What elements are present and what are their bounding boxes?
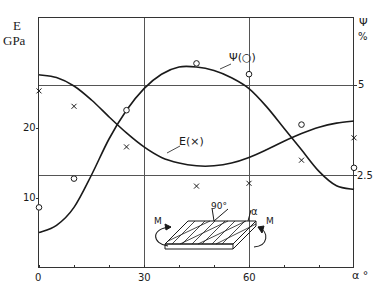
- psi-curve-label: Ψ(○): [229, 52, 256, 64]
- x-tick-label-30: 30: [138, 272, 151, 284]
- psi-data-point-circle-marker: [351, 165, 357, 171]
- inset-moment-left-label: M: [154, 215, 162, 227]
- psi-data-point-circle-marker: [246, 71, 252, 77]
- psi-data-point-circle-marker: [124, 107, 130, 113]
- left-axis-title-e: E: [13, 19, 21, 33]
- right-axis-title-psi: Ψ: [359, 17, 368, 29]
- inset-moment-right-label: M: [266, 215, 274, 227]
- right-axis-title-unit: %: [358, 31, 368, 43]
- plate-side-face: [165, 244, 233, 249]
- left-tick-label-10: 10: [23, 192, 36, 204]
- inset-alpha-label: α: [251, 206, 258, 218]
- e-curve: [39, 75, 354, 166]
- psi-label-leader: [220, 64, 231, 69]
- right-tick-label-2-5: 2.5: [357, 170, 373, 182]
- e-data-point-x-marker: [194, 184, 199, 189]
- left-tick-label-20: 20: [23, 122, 36, 134]
- fiber-hatching: [168, 221, 256, 244]
- plate-top-face: [165, 221, 256, 244]
- psi-data-point-circle-marker: [36, 205, 42, 211]
- inset-angle-90-label: 90°: [211, 200, 227, 212]
- e-data-point-x-marker: [72, 104, 77, 109]
- x-tick-label-60: 60: [243, 272, 256, 284]
- x-axis-title: α °: [352, 270, 368, 282]
- psi-data-point-circle-marker: [71, 176, 77, 182]
- psi-data-point-circle-marker: [194, 61, 200, 67]
- axis-ticks: [36, 86, 357, 269]
- curves: [39, 66, 354, 232]
- psi-data-point-circle-marker: [299, 122, 305, 128]
- left-axis-title-unit: GPa: [3, 34, 25, 48]
- right-tick-label-5: 5: [358, 79, 364, 91]
- e-curve-label: E(×): [179, 136, 204, 148]
- e-data-point-x-marker: [299, 158, 304, 163]
- x-tick-label-0: 0: [35, 272, 41, 284]
- e-data-point-x-marker: [124, 144, 129, 149]
- psi-curve: [39, 66, 354, 232]
- left-moment-arrow: [156, 227, 171, 246]
